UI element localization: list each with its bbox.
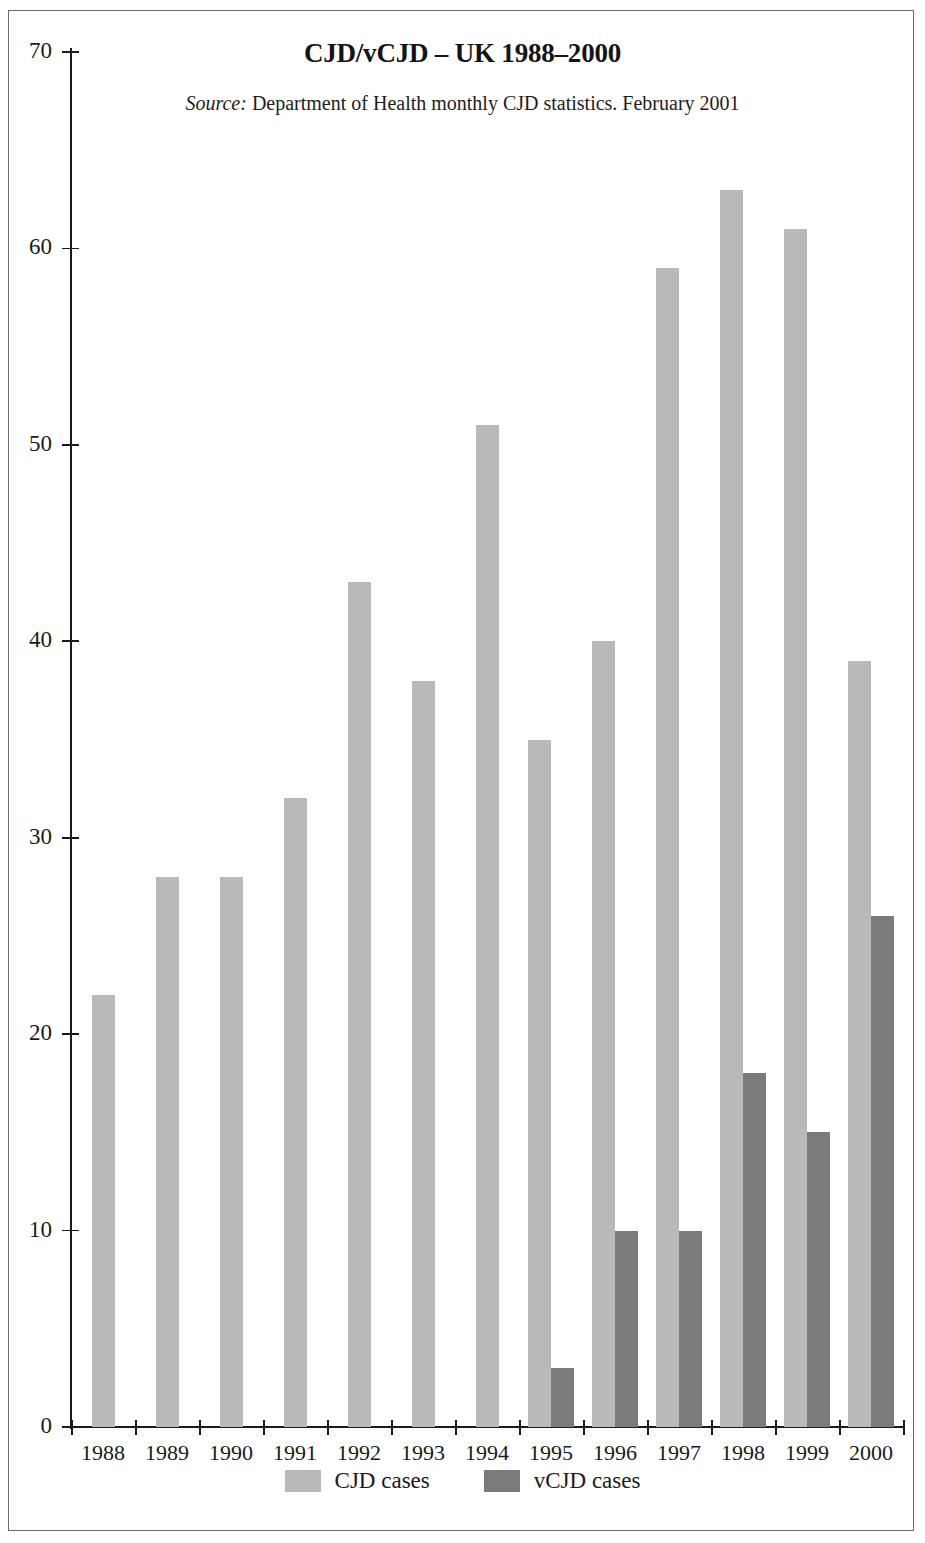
bar-cjd-1992 bbox=[348, 582, 371, 1427]
bar-cjd-2000 bbox=[848, 661, 871, 1427]
x-axis-tick bbox=[391, 1420, 393, 1435]
y-axis-tick bbox=[62, 444, 79, 446]
legend-swatch-cjd bbox=[285, 1470, 321, 1492]
x-axis-tick bbox=[135, 1420, 137, 1435]
x-axis-tick bbox=[455, 1420, 457, 1435]
bar-vcjd-1996 bbox=[615, 1231, 638, 1427]
x-axis-tick bbox=[775, 1420, 777, 1435]
x-axis-tick bbox=[583, 1420, 585, 1435]
x-axis-tick bbox=[199, 1420, 201, 1435]
y-axis-label-wrap: 30 bbox=[0, 825, 52, 849]
x-axis-tick bbox=[903, 1420, 905, 1435]
chart-figure: CJD/vCJD – UK 1988–2000 Source: Departme… bbox=[0, 0, 925, 1543]
x-axis-label: 1997 bbox=[647, 1440, 711, 1466]
y-axis-label: 0 bbox=[8, 1414, 52, 1437]
x-axis-label: 1988 bbox=[71, 1440, 135, 1466]
bar-cjd-1991 bbox=[284, 798, 307, 1427]
y-axis-label-wrap: 20 bbox=[0, 1021, 52, 1045]
x-axis-label: 1999 bbox=[775, 1440, 839, 1466]
x-axis-tick bbox=[327, 1420, 329, 1435]
x-axis-label: 1994 bbox=[455, 1440, 519, 1466]
bar-cjd-1993 bbox=[412, 681, 435, 1427]
x-axis-tick bbox=[839, 1420, 841, 1435]
bar-cjd-1995 bbox=[528, 740, 551, 1428]
x-axis-label: 1998 bbox=[711, 1440, 775, 1466]
bar-cjd-1989 bbox=[156, 877, 179, 1427]
legend-swatch-vcjd bbox=[484, 1470, 520, 1492]
y-axis-tick bbox=[62, 51, 79, 53]
x-axis-label: 1992 bbox=[327, 1440, 391, 1466]
y-axis-label-wrap: 70 bbox=[0, 39, 52, 63]
bar-cjd-1996 bbox=[592, 641, 615, 1427]
bar-cjd-1998 bbox=[720, 190, 743, 1428]
y-axis-label: 60 bbox=[8, 235, 52, 258]
y-axis-tick bbox=[62, 837, 79, 839]
bar-vcjd-2000 bbox=[871, 916, 894, 1427]
y-axis-label: 10 bbox=[8, 1218, 52, 1241]
plot-area: 010203040506070 198819891990199119921993… bbox=[0, 0, 925, 1543]
y-axis-label-wrap: 50 bbox=[0, 432, 52, 456]
x-axis-label: 1996 bbox=[583, 1440, 647, 1466]
bar-cjd-1997 bbox=[656, 268, 679, 1427]
x-axis-label: 1989 bbox=[135, 1440, 199, 1466]
x-axis-label: 2000 bbox=[839, 1440, 903, 1466]
legend-label: CJD cases bbox=[335, 1468, 430, 1494]
x-axis-tick bbox=[647, 1420, 649, 1435]
y-axis-line bbox=[70, 48, 72, 1429]
x-axis-tick bbox=[519, 1420, 521, 1435]
x-axis-tick bbox=[263, 1420, 265, 1435]
y-axis-label: 50 bbox=[8, 432, 52, 455]
bar-vcjd-1998 bbox=[743, 1073, 766, 1427]
x-axis-label: 1990 bbox=[199, 1440, 263, 1466]
bar-vcjd-1997 bbox=[679, 1231, 702, 1427]
bar-cjd-1994 bbox=[476, 425, 499, 1427]
bar-vcjd-1995 bbox=[551, 1368, 574, 1427]
y-axis-label: 40 bbox=[8, 628, 52, 651]
x-axis-label: 1991 bbox=[263, 1440, 327, 1466]
x-axis-label: 1993 bbox=[391, 1440, 455, 1466]
y-axis-label-wrap: 0 bbox=[0, 1414, 52, 1438]
y-axis-label-wrap: 60 bbox=[0, 235, 52, 259]
y-axis-label: 70 bbox=[8, 39, 52, 62]
y-axis-label-wrap: 40 bbox=[0, 628, 52, 652]
y-axis-tick bbox=[62, 248, 79, 250]
x-axis-label: 1995 bbox=[519, 1440, 583, 1466]
legend-item-cjd: CJD cases bbox=[285, 1468, 430, 1494]
bar-cjd-1999 bbox=[784, 229, 807, 1427]
x-axis-tick bbox=[711, 1420, 713, 1435]
y-axis-tick bbox=[62, 1033, 79, 1035]
y-axis-label: 20 bbox=[8, 1021, 52, 1044]
bar-vcjd-1999 bbox=[807, 1132, 830, 1427]
y-axis-tick bbox=[62, 1230, 79, 1232]
y-axis-label: 30 bbox=[8, 825, 52, 848]
x-axis-tick bbox=[71, 1420, 73, 1435]
chart-legend: CJD casesvCJD cases bbox=[0, 1468, 925, 1494]
bar-cjd-1988 bbox=[92, 995, 115, 1427]
legend-label: vCJD cases bbox=[534, 1468, 641, 1494]
bar-cjd-1990 bbox=[220, 877, 243, 1427]
y-axis-label-wrap: 10 bbox=[0, 1218, 52, 1242]
legend-item-vcjd: vCJD cases bbox=[484, 1468, 641, 1494]
y-axis-tick bbox=[62, 640, 79, 642]
